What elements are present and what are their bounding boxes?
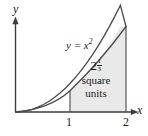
region-units-line-1: square <box>70 74 122 87</box>
y-axis-arrowhead <box>12 17 18 25</box>
axis-label-y: y <box>13 3 18 15</box>
fraction-numerator: 1 <box>97 58 102 65</box>
graph-figure: y x 1 2 y = x2 213 square units <box>0 0 148 136</box>
region-area-value: 213 <box>70 58 122 74</box>
x-tick-label-2: 2 <box>123 116 129 128</box>
region-area-annotation: 213 square units <box>70 58 122 100</box>
curve-equation-text: y = x <box>66 39 89 51</box>
fraction-denominator: 3 <box>97 66 102 73</box>
curve-equation-label: y = x2 <box>66 38 92 51</box>
curve-equation-exponent: 2 <box>89 37 93 46</box>
mixed-number: 213 <box>91 58 102 74</box>
region-units-line-2: units <box>70 87 122 100</box>
x-tick-label-1: 1 <box>66 116 72 128</box>
axis-label-x: x <box>137 104 142 116</box>
fraction-one-third: 13 <box>97 58 102 74</box>
